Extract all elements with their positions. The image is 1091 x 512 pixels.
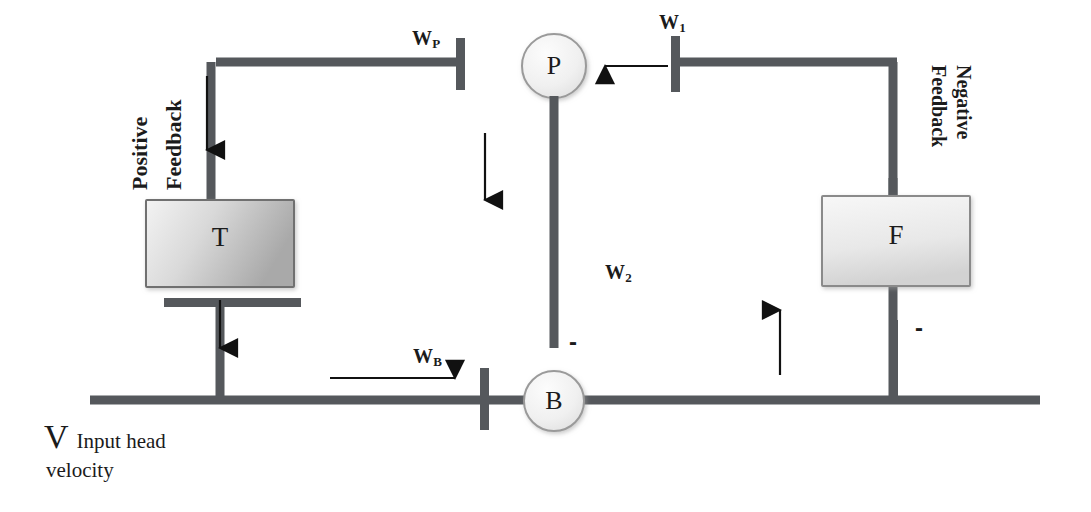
minus-sign-feedback: -: [915, 316, 923, 340]
positive-feedback-line-1: Positive: [128, 117, 152, 190]
positive-feedback-label-2: Feedback: [162, 100, 186, 190]
signal-label-w2-sub: 2: [625, 270, 632, 285]
input-caption-line-1: Input head: [77, 429, 166, 453]
signal-label-w1: W1: [659, 11, 686, 33]
input-caption-symbol: V: [44, 418, 69, 455]
signal-label-w1-sub: 1: [679, 20, 686, 35]
signal-label-wb-sub: B: [433, 354, 442, 369]
signal-label-wb: WB: [413, 345, 442, 367]
positive-feedback-line-2: Feedback: [162, 100, 186, 190]
positive-feedback-path: [211, 62, 461, 204]
minus-sign-w2: -: [569, 330, 577, 354]
node-T-label: T: [146, 224, 294, 251]
w1-tick-mark: [671, 36, 680, 92]
wp-tick-mark: [456, 38, 465, 90]
signal-label-w2: W2: [605, 261, 632, 283]
node-B-label: B: [524, 388, 584, 414]
signal-label-wp-base: W: [412, 27, 432, 49]
signal-label-wb-base: W: [413, 345, 433, 367]
f-branch-tick: [889, 320, 898, 402]
node-P-label: P: [524, 53, 584, 79]
signal-label-w2-base: W: [605, 261, 625, 283]
negative-feedback-label-2: Feedback: [928, 65, 950, 147]
signal-label-wp-sub: P: [432, 36, 440, 51]
input-caption: VInput head velocity: [44, 418, 166, 483]
negative-feedback-label: Negative: [953, 65, 975, 139]
diagram-canvas: T F P B WP W1 W2 WB - - Positive Feedbac…: [0, 0, 1091, 512]
negative-feedback-line-1: Negative: [953, 65, 975, 139]
wb-tick-mark: [480, 368, 489, 430]
input-caption-line-2: velocity: [46, 458, 166, 483]
positive-feedback-label: Positive: [128, 117, 152, 190]
negative-feedback-line-2: Feedback: [928, 65, 950, 147]
t-output-bar: [164, 298, 301, 307]
signal-label-wp: WP: [412, 27, 440, 49]
signal-label-w1-base: W: [659, 11, 679, 33]
node-F-label: F: [822, 222, 970, 249]
